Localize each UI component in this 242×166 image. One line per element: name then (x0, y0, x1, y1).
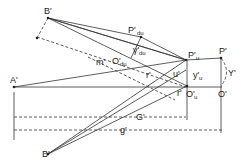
label-b-top: B' (44, 6, 52, 16)
label-o: O' (218, 89, 227, 99)
label-ou-sub: u (194, 94, 197, 100)
ray-bbot-pu (48, 60, 186, 154)
label-y-u-sub: u (199, 75, 202, 81)
label-b-bottom: B' (42, 149, 50, 159)
label-pdu-sub: du (137, 30, 144, 36)
ray-bbot-ou (48, 86, 187, 154)
label-r: r' (146, 70, 151, 80)
label-u: u' (173, 69, 180, 79)
label-pu: P' (188, 50, 196, 60)
label-Y: Y' (228, 68, 236, 78)
label-r2: r' (177, 88, 182, 98)
dashed-vert-left (37, 18, 48, 38)
label-pdu: P' (128, 25, 136, 35)
label-g: g' (120, 125, 127, 135)
label-G: G' (136, 112, 145, 122)
ray-btop-ou (48, 18, 187, 86)
ray-bbot-ou2 (48, 70, 186, 154)
label-gamma-du-sub: du (139, 50, 146, 56)
ray-btop-pu (48, 18, 186, 60)
y-arc (221, 58, 227, 86)
label-m: m' (96, 57, 105, 67)
label-pu-sub: u (196, 55, 199, 61)
label-a: A' (10, 75, 18, 85)
label-p: P' (219, 46, 227, 56)
optics-diagram: B' A' B' P' du γ' du O' du m' P' u P' u'… (0, 0, 242, 166)
label-odu-sub: du (120, 61, 127, 67)
